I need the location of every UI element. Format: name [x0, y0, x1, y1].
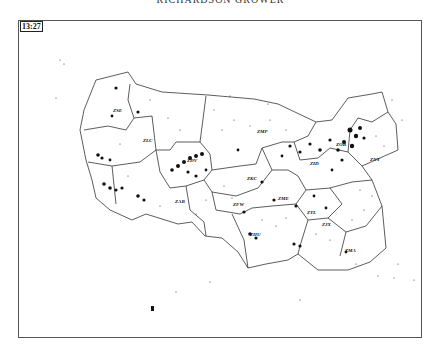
center-label-zme: ZME	[277, 196, 290, 201]
center-label-zdv: ZDV	[186, 158, 198, 163]
sector-map: ZSE ZLC ZDV ZKC ZMP ZAB ZFW ZME ZHU ZTL …	[0, 0, 441, 358]
center-label-zjx: ZJX	[321, 222, 332, 227]
center-label-zid: ZID	[309, 161, 319, 166]
center-label-zny: ZNY	[369, 157, 381, 162]
center-label-zkc: ZKC	[246, 176, 257, 181]
us-outline	[80, 72, 398, 270]
center-label-zhu: ZHU	[249, 232, 261, 237]
center-label-zmp: ZMP	[256, 129, 269, 134]
center-label-zse: ZSE	[112, 108, 123, 113]
center-labels: ZSE ZLC ZDV ZKC ZMP ZAB ZFW ZME ZHU ZTL …	[112, 108, 381, 253]
center-label-zob: ZOB	[335, 142, 347, 147]
center-label-zfw: ZFW	[232, 202, 244, 207]
center-label-zlc: ZLC	[142, 138, 153, 143]
sector-boundaries	[80, 72, 398, 270]
center-label-zab: ZAB	[174, 199, 185, 204]
position-marker	[151, 306, 154, 311]
center-label-zma: ZMA	[344, 248, 357, 253]
center-label-ztl: ZTL	[306, 210, 316, 215]
